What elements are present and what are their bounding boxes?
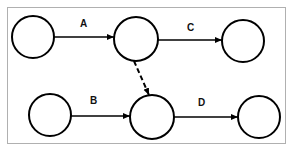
edge-label-b: B — [90, 95, 97, 106]
node-4 — [29, 94, 71, 136]
network-diagram: A C B D — [0, 0, 293, 153]
node-3 — [222, 20, 264, 62]
node-2 — [114, 17, 158, 61]
node-1 — [12, 16, 54, 58]
edge-label-a: A — [80, 18, 87, 29]
edge-label-d: D — [198, 97, 205, 108]
node-6 — [238, 96, 280, 138]
edge-dummy-dashed — [134, 61, 149, 95]
node-5 — [130, 95, 174, 139]
edge-label-c: C — [187, 22, 194, 33]
